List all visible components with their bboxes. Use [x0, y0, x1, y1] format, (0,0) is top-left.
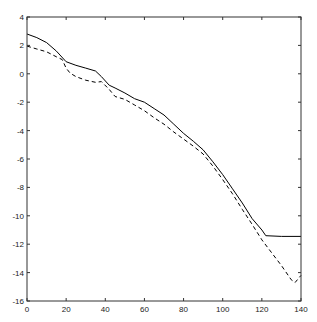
series-line-dashed [27, 46, 301, 282]
x-axis-tick-labels: 020406080100120140 [25, 305, 308, 314]
plot-area-border [27, 17, 301, 301]
x-tick-label: 0 [25, 305, 30, 314]
series-layer [27, 34, 301, 283]
y-tick-label: 4 [20, 13, 25, 22]
x-tick-label: 120 [255, 305, 269, 314]
x-tick-label: 100 [216, 305, 230, 314]
y-tick-label: -14 [12, 269, 24, 278]
x-tick-label: 60 [140, 305, 149, 314]
y-tick-label: -8 [17, 183, 25, 192]
x-tick-label: 40 [101, 305, 110, 314]
y-axis-tick-labels: 420-2-4-6-8-10-12-14-16 [12, 13, 24, 306]
x-tick-label: 80 [179, 305, 188, 314]
y-tick-label: -16 [12, 297, 24, 306]
x-tick-label: 140 [294, 305, 308, 314]
line-chart: 020406080100120140 420-2-4-6-8-10-12-14-… [0, 0, 317, 322]
series-line-solid [27, 34, 301, 236]
y-tick-label: 2 [20, 41, 25, 50]
y-tick-label: -6 [17, 155, 25, 164]
axis-ticks [27, 17, 301, 301]
y-tick-label: -4 [17, 127, 25, 136]
y-tick-label: -10 [12, 212, 24, 221]
y-tick-label: -12 [12, 240, 24, 249]
y-tick-label: -2 [17, 98, 25, 107]
x-tick-label: 20 [62, 305, 71, 314]
y-tick-label: 0 [20, 70, 25, 79]
